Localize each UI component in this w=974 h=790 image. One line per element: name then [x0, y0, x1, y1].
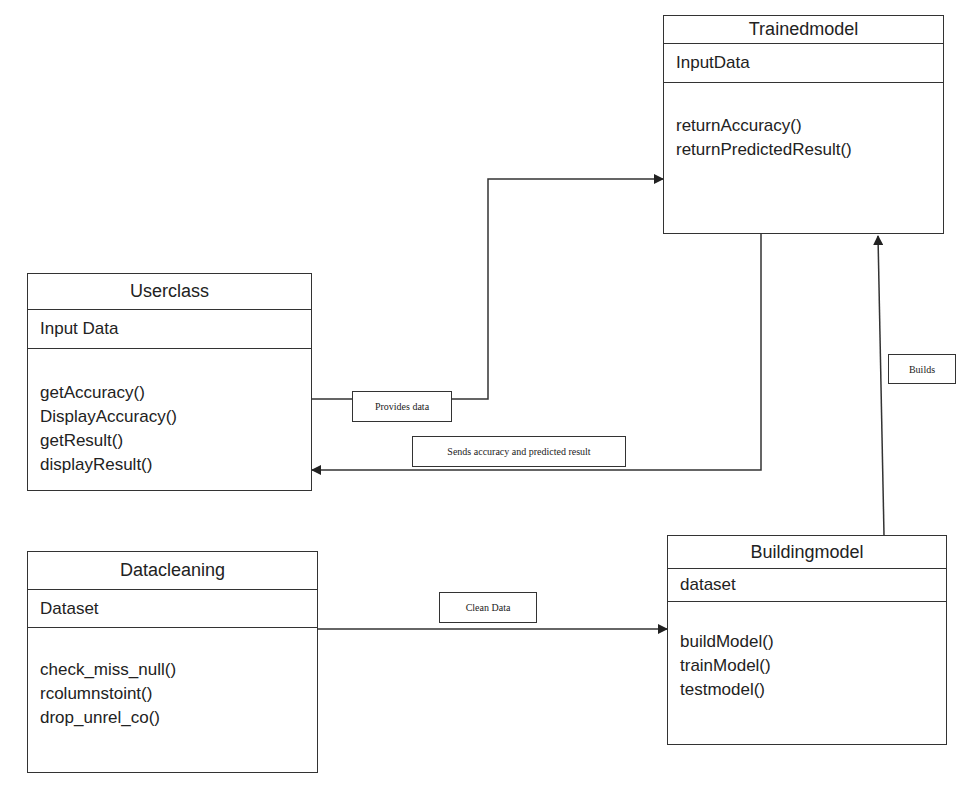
method: DisplayAccuracy()	[40, 405, 311, 429]
class-title: Trainedmodel	[664, 16, 943, 44]
class-methods: getAccuracy() DisplayAccuracy() getResul…	[28, 349, 311, 477]
class-attributes: dataset	[668, 569, 946, 602]
label-sends-accuracy: Sends accuracy and predicted result	[412, 436, 626, 467]
class-title: Buildingmodel	[668, 536, 946, 569]
attribute: Dataset	[40, 599, 99, 619]
method: check_miss_null()	[40, 658, 317, 682]
label-provides-data: Provides data	[352, 391, 452, 422]
class-attributes: Input Data	[28, 310, 311, 349]
class-userclass: Userclass Input Data getAccuracy() Displ…	[27, 273, 312, 491]
class-title: Datacleaning	[28, 552, 317, 590]
method: returnPredictedResult()	[676, 138, 943, 162]
attribute: Input Data	[40, 319, 118, 339]
method: displayResult()	[40, 453, 311, 477]
method: buildModel()	[680, 630, 946, 654]
class-methods: check_miss_null() rcolumnstoint() drop_u…	[28, 628, 317, 730]
class-buildingmodel: Buildingmodel dataset buildModel() train…	[667, 535, 947, 745]
class-methods: buildModel() trainModel() testmodel()	[668, 602, 946, 702]
sends-accuracy-arrow	[312, 234, 761, 470]
method: testmodel()	[680, 678, 946, 702]
class-methods: returnAccuracy() returnPredictedResult()	[664, 83, 943, 162]
method: drop_unrel_co()	[40, 706, 317, 730]
method: getResult()	[40, 429, 311, 453]
class-attributes: Dataset	[28, 590, 317, 628]
method: returnAccuracy()	[676, 114, 943, 138]
provides-data-arrow	[312, 179, 663, 399]
method: getAccuracy()	[40, 381, 311, 405]
class-datacleaning: Datacleaning Dataset check_miss_null() r…	[27, 551, 318, 773]
class-trainedmodel: Trainedmodel InputData returnAccuracy() …	[663, 15, 944, 234]
label-clean-data: Clean Data	[439, 592, 537, 623]
attribute: dataset	[680, 575, 736, 595]
method: rcolumnstoint()	[40, 682, 317, 706]
class-attributes: InputData	[664, 44, 943, 83]
method: trainModel()	[680, 654, 946, 678]
class-title: Userclass	[28, 274, 311, 310]
label-builds: Builds	[888, 354, 956, 384]
builds-arrow	[878, 236, 884, 535]
attribute: InputData	[676, 53, 750, 73]
